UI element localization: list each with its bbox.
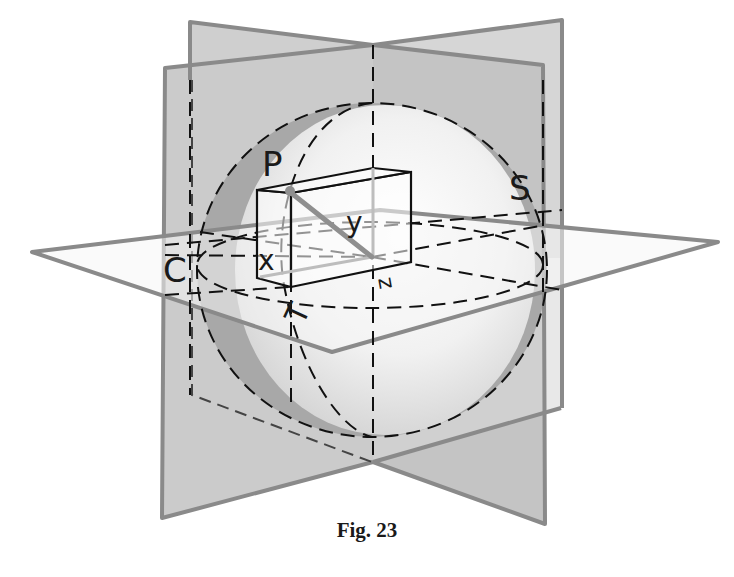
label-x: x: [258, 244, 275, 277]
label-y: y: [346, 206, 363, 239]
sphere-planes-diagram: P S C x y z T: [0, 0, 734, 577]
point-P: [285, 186, 295, 196]
label-S: S: [509, 168, 531, 208]
label-P: P: [262, 144, 283, 184]
figure-caption: Fig. 23: [0, 518, 734, 543]
label-C: C: [163, 250, 187, 290]
